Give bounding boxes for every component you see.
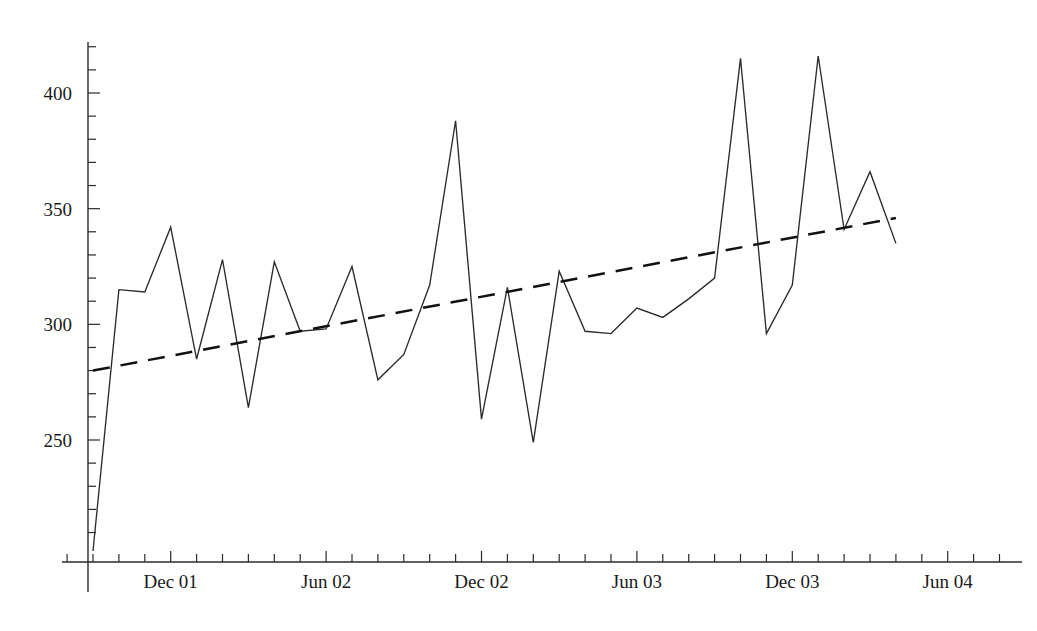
x-axis-tick-label: Jun 04 [923, 571, 974, 592]
x-tick-labels: Dec 01Jun 02Dec 02Jun 03Dec 03Jun 04 [144, 571, 974, 592]
y-tick-labels: 250300350400 [44, 83, 73, 451]
y-tick-marks [88, 47, 100, 533]
chart-container: 250300350400 Dec 01Jun 02Dec 02Jun 03Dec… [0, 0, 1037, 631]
line-chart: 250300350400 Dec 01Jun 02Dec 02Jun 03Dec… [0, 0, 1037, 631]
y-axis-tick-label: 350 [44, 199, 73, 220]
x-axis-tick-label: Dec 03 [765, 571, 819, 592]
y-axis: 250300350400 [44, 42, 101, 592]
y-axis-tick-label: 400 [44, 83, 73, 104]
data-series-line [93, 56, 896, 551]
x-axis-tick-label: Jun 02 [301, 571, 351, 592]
x-axis-tick-label: Dec 01 [144, 571, 198, 592]
x-tick-marks [67, 551, 999, 562]
x-axis-tick-label: Jun 03 [612, 571, 662, 592]
x-axis: Dec 01Jun 02Dec 02Jun 03Dec 03Jun 04 [62, 551, 1022, 592]
y-axis-tick-label: 250 [44, 430, 73, 451]
x-axis-tick-label: Dec 02 [454, 571, 508, 592]
y-axis-tick-label: 300 [44, 314, 73, 335]
